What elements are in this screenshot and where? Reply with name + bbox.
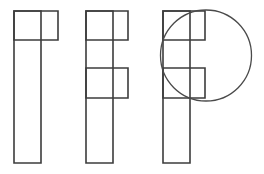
figure-two-top-arm bbox=[86, 11, 128, 40]
figure-three-vertical-bar bbox=[163, 11, 190, 163]
figure-two-vertical-bar bbox=[86, 11, 113, 163]
figure-two-middle-arm bbox=[86, 68, 128, 98]
figure-one-bar-with-top-square bbox=[14, 11, 58, 163]
figure-one-top-arm bbox=[14, 11, 58, 40]
figure-one-vertical-bar bbox=[14, 11, 41, 163]
line-drawing-svg bbox=[0, 0, 264, 174]
figure-three-overlay-circle bbox=[161, 10, 252, 101]
figure-canvas bbox=[0, 0, 264, 174]
figure-three-f-shape-with-circle bbox=[161, 10, 252, 163]
figure-two-f-shape bbox=[86, 11, 128, 163]
